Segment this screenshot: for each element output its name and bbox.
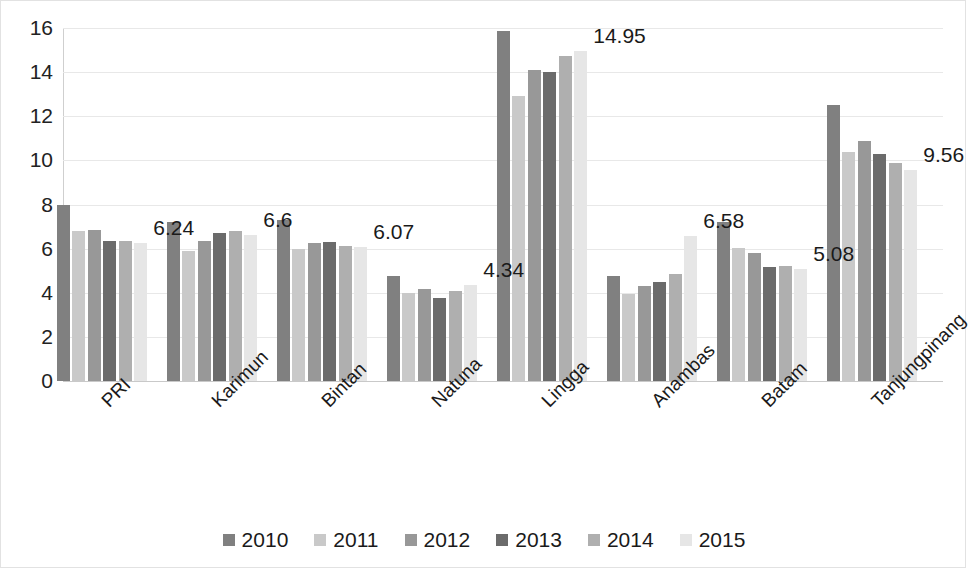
bar[interactable]	[779, 266, 792, 381]
bar[interactable]	[292, 249, 305, 381]
bar[interactable]	[277, 220, 290, 381]
data-label: 6.24	[153, 217, 194, 238]
y-axis-tick-0: 0	[1, 370, 53, 391]
legend-swatch-icon	[314, 534, 326, 546]
legend-label: 2011	[333, 529, 378, 550]
legend-item[interactable]: 2012	[405, 529, 471, 550]
data-label: 9.56	[923, 144, 964, 165]
bar[interactable]	[387, 276, 400, 381]
y-axis-tick-14: 14	[1, 61, 53, 82]
data-label: 6.58	[703, 210, 744, 231]
bar[interactable]	[339, 246, 352, 381]
bar[interactable]	[134, 243, 147, 381]
bar[interactable]	[842, 152, 855, 381]
y-axis-tick-labels: 0246810121416	[1, 1, 53, 568]
bar[interactable]	[88, 230, 101, 381]
bar[interactable]	[669, 274, 682, 381]
data-label: 14.95	[593, 25, 646, 46]
bar[interactable]	[418, 289, 431, 381]
legend-item[interactable]: 2015	[680, 529, 746, 550]
bar-group	[167, 28, 258, 381]
bar[interactable]	[512, 96, 525, 381]
legend-swatch-icon	[496, 534, 508, 546]
legend-item[interactable]: 2013	[496, 529, 562, 550]
y-axis-tick-2: 2	[1, 326, 53, 347]
bar[interactable]	[794, 269, 807, 381]
bar[interactable]	[732, 248, 745, 381]
legend-swatch-icon	[588, 534, 600, 546]
bar-group	[387, 28, 478, 381]
legend-label: 2013	[515, 529, 562, 550]
bar[interactable]	[464, 285, 477, 381]
bar[interactable]	[119, 241, 132, 381]
bar-group	[57, 28, 148, 381]
axis-baseline	[63, 381, 943, 382]
bar[interactable]	[543, 72, 556, 381]
bar[interactable]	[167, 222, 180, 381]
bar[interactable]	[244, 235, 257, 381]
bar[interactable]	[622, 294, 635, 381]
bar[interactable]	[889, 163, 902, 381]
bar-group	[497, 28, 588, 381]
bar[interactable]	[873, 154, 886, 381]
bar[interactable]	[72, 231, 85, 381]
bar[interactable]	[559, 56, 572, 381]
legend-swatch-icon	[680, 534, 692, 546]
data-label: 6.6	[263, 209, 292, 230]
bar-group	[827, 28, 918, 381]
chart-legend: 201020112012201320142015	[1, 529, 967, 550]
bar[interactable]	[607, 276, 620, 381]
legend-item[interactable]: 2011	[314, 529, 378, 550]
y-axis-tick-12: 12	[1, 105, 53, 126]
bar[interactable]	[198, 241, 211, 381]
bar[interactable]	[684, 236, 697, 381]
y-axis-tick-6: 6	[1, 238, 53, 259]
bar[interactable]	[103, 241, 116, 381]
bar[interactable]	[497, 31, 510, 381]
legend-swatch-icon	[223, 534, 235, 546]
legend-label: 2010	[242, 529, 289, 550]
bar[interactable]	[904, 170, 917, 381]
legend-label: 2012	[424, 529, 471, 550]
bar[interactable]	[308, 243, 321, 381]
bar[interactable]	[763, 267, 776, 381]
bar[interactable]	[229, 231, 242, 381]
bar-group	[607, 28, 698, 381]
bar[interactable]	[354, 247, 367, 381]
bar[interactable]	[748, 253, 761, 381]
y-axis-tick-4: 4	[1, 282, 53, 303]
legend-item[interactable]: 2014	[588, 529, 654, 550]
bar[interactable]	[57, 205, 70, 382]
bar[interactable]	[717, 222, 730, 381]
bar[interactable]	[433, 298, 446, 381]
legend-item[interactable]: 2010	[223, 529, 289, 550]
bar[interactable]	[653, 282, 666, 381]
bar[interactable]	[528, 70, 541, 381]
y-axis-tick-8: 8	[1, 194, 53, 215]
y-axis-tick-16: 16	[1, 17, 53, 38]
bar[interactable]	[323, 242, 336, 381]
data-label: 5.08	[813, 243, 854, 264]
bar-group	[277, 28, 368, 381]
bar[interactable]	[213, 233, 226, 381]
legend-label: 2014	[607, 529, 654, 550]
data-label: 6.07	[373, 221, 414, 242]
plot-area: 6.246.66.074.3414.956.585.089.56	[63, 28, 943, 381]
bar[interactable]	[858, 141, 871, 381]
bar[interactable]	[402, 293, 415, 381]
bar[interactable]	[638, 286, 651, 381]
bar-group	[717, 28, 808, 381]
data-label: 4.34	[483, 259, 524, 280]
y-axis-tick-10: 10	[1, 149, 53, 170]
legend-label: 2015	[699, 529, 746, 550]
bar[interactable]	[182, 251, 195, 381]
bar[interactable]	[449, 291, 462, 381]
bar[interactable]	[574, 51, 587, 381]
legend-swatch-icon	[405, 534, 417, 546]
